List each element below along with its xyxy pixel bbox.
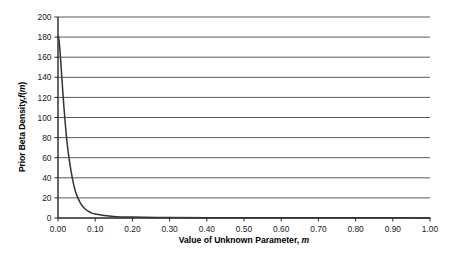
x-tick-label: 0.90: [385, 224, 402, 234]
x-tick-label: 0.20: [124, 224, 141, 234]
x-tick-label: 0.10: [87, 224, 104, 234]
plot-area: 020406080100120140160180200 0.000.100.20…: [0, 0, 459, 254]
x-tick-label: 0.30: [161, 224, 178, 234]
x-tick-label: 1.00: [422, 224, 439, 234]
x-tick-labels: 0.000.100.200.300.400.500.600.700.800.90…: [50, 224, 439, 234]
y-tick-label: 120: [38, 93, 52, 103]
y-tick-label: 40: [42, 173, 52, 183]
y-tick-label: 20: [42, 193, 52, 203]
x-tick-label: 0.40: [199, 224, 216, 234]
x-tick-label: 0.80: [347, 224, 364, 234]
y-tick-label: 60: [42, 153, 52, 163]
y-tick-label: 0: [47, 213, 52, 223]
y-tick-label: 180: [38, 32, 52, 42]
density-curve-line: [58, 36, 430, 218]
prior-beta-density-chart: Prior Beta Density, f(m) Value of Unknow…: [0, 0, 459, 254]
y-tick-label: 160: [38, 52, 52, 62]
x-tick-label: 0.50: [236, 224, 253, 234]
x-tick-label: 0.00: [50, 224, 67, 234]
y-tick-label: 200: [38, 12, 52, 22]
x-tick-label: 0.70: [310, 224, 327, 234]
gridlines: [58, 17, 430, 198]
y-tick-label: 100: [38, 113, 52, 123]
y-tick-labels: 020406080100120140160180200: [38, 12, 52, 223]
x-tick-label: 0.60: [273, 224, 290, 234]
y-tick-label: 140: [38, 72, 52, 82]
y-tick-label: 80: [42, 133, 52, 143]
